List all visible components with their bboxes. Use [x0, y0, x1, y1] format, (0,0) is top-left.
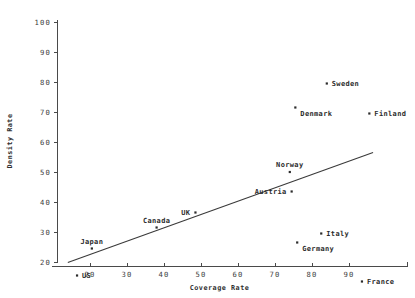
data-point-germany: Germany [296, 241, 334, 252]
x-tick-label: 60 [232, 270, 243, 279]
point-label: UK [181, 209, 191, 217]
y-tick-label: 100 [34, 18, 51, 27]
point-marker [291, 190, 293, 192]
point-label: Japan [80, 238, 103, 246]
point-marker [76, 274, 78, 276]
scatter-plot-figure: 2030405060708090100 2030405060708090 USJ… [0, 0, 415, 298]
y-tick-label: 70 [40, 108, 51, 117]
data-point-us: US [76, 272, 91, 280]
point-marker [194, 211, 196, 213]
x-tick-label: 40 [158, 270, 169, 279]
x-tick-label: 50 [195, 270, 206, 279]
x-tick-label: 30 [121, 270, 132, 279]
data-point-uk: UK [181, 209, 196, 217]
point-label: Denmark [300, 110, 332, 118]
y-tick-label: 20 [40, 258, 51, 267]
data-point-sweden: Sweden [326, 80, 359, 88]
data-point-japan: Japan [80, 238, 103, 250]
y-tick-label: 30 [40, 228, 51, 237]
point-label: France [367, 278, 394, 286]
point-marker [320, 232, 322, 234]
point-marker [326, 82, 328, 84]
x-tick-label: 70 [269, 270, 280, 279]
point-label: US [82, 272, 91, 280]
y-axis-title: Density Rate [6, 113, 14, 168]
x-axis: 2030405060708090 [52, 262, 407, 279]
data-point-italy: Italy [320, 230, 349, 238]
data-point-finland: Finland [368, 110, 406, 118]
x-axis-title: Coverage Rate [190, 284, 250, 292]
point-label: Norway [276, 161, 304, 169]
data-point-austria: Austria [255, 188, 293, 196]
y-axis: 2030405060708090100 [34, 18, 58, 267]
point-marker [91, 247, 93, 249]
data-point-denmark: Denmark [294, 106, 332, 117]
point-label: Germany [302, 245, 334, 253]
y-tick-label: 90 [40, 48, 51, 57]
y-tick-label: 60 [40, 138, 51, 147]
point-label: Italy [326, 230, 349, 238]
data-point-france: France [361, 278, 394, 286]
y-tick-label: 50 [40, 168, 51, 177]
point-marker [289, 171, 291, 173]
point-marker [296, 241, 298, 243]
point-label: Canada [143, 217, 170, 225]
point-marker [294, 106, 296, 108]
y-tick-label: 80 [40, 78, 51, 87]
y-tick-label: 40 [40, 198, 51, 207]
point-label: Sweden [332, 80, 359, 88]
point-label: Austria [255, 188, 287, 196]
data-points: USJapanCanadaUKAustriaNorwayGermanyItaly… [76, 80, 406, 286]
x-tick-label: 80 [306, 270, 317, 279]
point-marker [361, 280, 363, 282]
point-label: Finland [374, 110, 406, 118]
x-tick-label: 90 [343, 270, 354, 279]
plot-canvas: 2030405060708090100 2030405060708090 USJ… [0, 0, 415, 298]
point-marker [156, 226, 158, 228]
point-marker [368, 112, 370, 114]
data-point-norway: Norway [276, 161, 304, 173]
